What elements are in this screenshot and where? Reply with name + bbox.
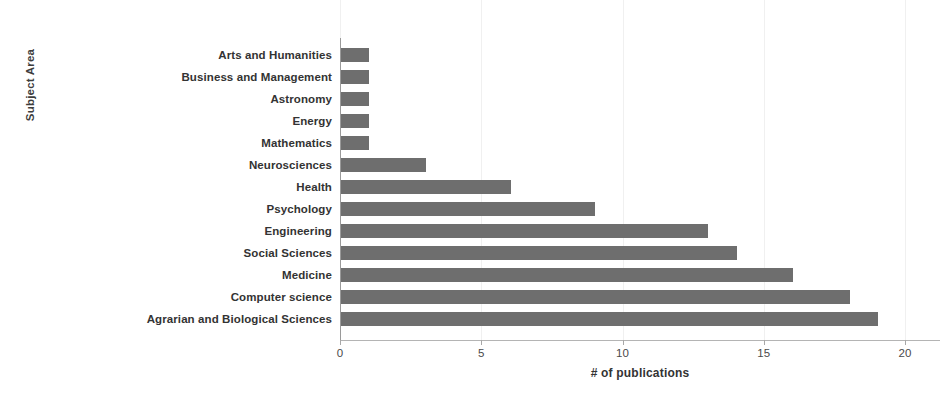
bar-category-label: Medicine [0, 264, 332, 286]
bar [341, 48, 369, 62]
bar-row: Arts and Humanities [0, 44, 940, 66]
x-tick-mark [481, 340, 482, 345]
bar-category-label: Energy [0, 110, 332, 132]
x-tick-label: 5 [461, 347, 501, 359]
bar-category-label: Arts and Humanities [0, 44, 332, 66]
bar-category-label: Mathematics [0, 132, 332, 154]
x-tick-mark [764, 340, 765, 345]
bar-row: Neurosciences [0, 154, 940, 176]
bar-category-label: Psychology [0, 198, 332, 220]
x-tick-label: 0 [320, 347, 360, 359]
bar-row: Engineering [0, 220, 940, 242]
bar [341, 158, 426, 172]
bar-row: Social Sciences [0, 242, 940, 264]
bar-category-label: Agrarian and Biological Sciences [0, 308, 332, 330]
bar-row: Astronomy [0, 88, 940, 110]
bar-row: Psychology [0, 198, 940, 220]
bar-category-label: Engineering [0, 220, 332, 242]
plot-area: Arts and HumanitiesBusiness and Manageme… [340, 38, 940, 340]
x-axis-title: # of publications [340, 366, 940, 380]
bar-category-label: Astronomy [0, 88, 332, 110]
bar [341, 290, 850, 304]
bar-row: Agrarian and Biological Sciences [0, 308, 940, 330]
bar-category-label: Computer science [0, 286, 332, 308]
x-tick-mark [340, 340, 341, 345]
bar [341, 136, 369, 150]
bar-row: Computer science [0, 286, 940, 308]
bar-row: Medicine [0, 264, 940, 286]
bar [341, 312, 878, 326]
bar-category-label: Business and Management [0, 66, 332, 88]
x-tick-mark [905, 340, 906, 345]
bar [341, 246, 737, 260]
bar-category-label: Health [0, 176, 332, 198]
bar-category-label: Social Sciences [0, 242, 332, 264]
x-tick-label: 15 [744, 347, 784, 359]
bar-chart-figure: Subject Area Arts and HumanitiesBusiness… [0, 0, 952, 403]
bar [341, 224, 708, 238]
x-tick-mark [623, 340, 624, 345]
bar [341, 268, 793, 282]
bar-category-label: Neurosciences [0, 154, 332, 176]
x-tick-label: 20 [885, 347, 925, 359]
x-tick-label: 10 [603, 347, 643, 359]
bar [341, 114, 369, 128]
bar-row: Mathematics [0, 132, 940, 154]
bar-row: Health [0, 176, 940, 198]
bar-row: Energy [0, 110, 940, 132]
bar [341, 92, 369, 106]
x-axis-line [340, 340, 940, 341]
bar-row: Business and Management [0, 66, 940, 88]
bar [341, 70, 369, 84]
bar [341, 202, 595, 216]
bar [341, 180, 511, 194]
